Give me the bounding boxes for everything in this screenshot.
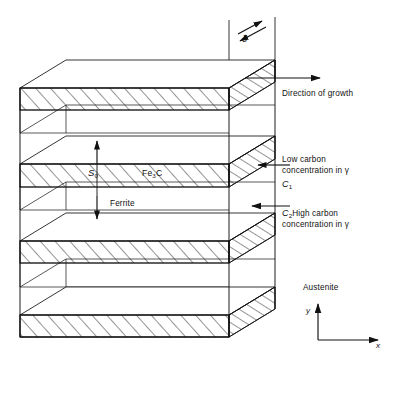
s0-subscript: 0: [95, 172, 99, 179]
diagram-canvas: δ Direction of growth Low carbon concent…: [0, 0, 400, 404]
pearlite-growth-diagram: [0, 0, 400, 404]
cementite-symbol: Fe: [142, 168, 152, 178]
coordinate-axes: [318, 304, 378, 340]
c1-symbol: C: [282, 179, 289, 189]
cementite-label: Fe3C: [142, 168, 162, 181]
ferrite-label: Ferrite: [110, 199, 135, 210]
c1-label: C1: [282, 179, 292, 192]
cementite-symbol-tail: C: [156, 168, 162, 178]
c1-subscript: 1: [289, 183, 293, 190]
interlamellar-spacing-label: S0: [88, 168, 98, 181]
c2-symbol: C: [282, 208, 289, 218]
high-carbon-label-line1: High carbon: [292, 209, 338, 218]
delta-label: δ: [242, 34, 247, 45]
low-carbon-label-line2: concentration in γ: [282, 166, 349, 177]
x-axis-label: x: [376, 341, 380, 352]
austenite-label: Austenite: [303, 283, 339, 294]
direction-of-growth-label: Direction of growth: [282, 89, 353, 100]
high-carbon-label-line2: concentration in γ: [282, 220, 349, 231]
cementite-lamella-3: [20, 213, 275, 263]
cementite-lamella-4: [20, 287, 275, 337]
y-axis-label: y: [306, 306, 310, 317]
low-carbon-label-line1: Low carbon: [282, 155, 326, 166]
